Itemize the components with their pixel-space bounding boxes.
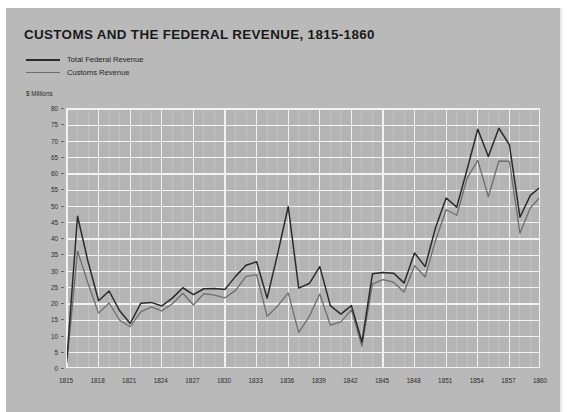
y-axis-tick-mark	[61, 319, 64, 320]
x-axis-tick-label: 1827	[185, 377, 199, 384]
y-axis-tick-label: 10	[51, 332, 58, 339]
y-axis-tick-mark	[61, 173, 64, 174]
legend-item-customs-revenue: Customs Revenue	[26, 67, 143, 78]
y-axis-tick-mark	[61, 238, 64, 239]
y-axis-tick-label: 25	[51, 283, 58, 290]
legend-item-label: Customs Revenue	[67, 68, 129, 77]
y-axis-tick-mark	[61, 303, 64, 304]
y-axis-tick-mark	[61, 189, 64, 190]
y-axis-tick-mark	[61, 271, 64, 272]
y-axis-tick-mark	[61, 206, 64, 207]
y-axis-tick-label: 30	[51, 267, 58, 274]
y-axis-tick-label: 15	[51, 316, 58, 323]
x-axis-tick-label: 1833	[248, 377, 262, 384]
x-axis-tick-label: 1848	[406, 377, 420, 384]
plot-area	[66, 108, 540, 368]
y-axis-tick-label: 50	[51, 202, 58, 209]
plot-data-lines	[67, 109, 540, 368]
y-axis-tick-label: 75	[51, 121, 58, 128]
x-axis-tick-label: 1839	[312, 377, 326, 384]
y-axis-tick-label: 20	[51, 300, 58, 307]
x-axis-tick-label: 1845	[375, 377, 389, 384]
y-axis-tick-label: 45	[51, 218, 58, 225]
y-axis-tick-mark	[61, 368, 64, 369]
y-axis-tick-label: 35	[51, 251, 58, 258]
x-axis-tick-label: 1818	[90, 377, 104, 384]
x-axis-tick-labels: 1815181818211824182718301833183618391842…	[66, 368, 540, 392]
y-axis-tick-mark	[61, 141, 64, 142]
y-axis-tick-label: 40	[51, 235, 58, 242]
legend-item-total-federal-revenue: Total Federal Revenue	[26, 54, 143, 65]
x-axis-tick-label: 1842	[343, 377, 357, 384]
page-title: CUSTOMS AND THE FEDERAL REVENUE, 1815-18…	[24, 27, 375, 42]
x-axis-tick-label: 1821	[122, 377, 136, 384]
y-axis-tick-mark	[61, 222, 64, 223]
legend-line-swatch-icon	[26, 59, 60, 61]
y-axis-tick-mark	[61, 254, 64, 255]
x-axis-tick-label: 1830	[217, 377, 231, 384]
y-axis-tick-label: 65	[51, 153, 58, 160]
y-axis-tick-label: 70	[51, 137, 58, 144]
x-axis-tick-label: 1815	[59, 377, 73, 384]
legend-item-label: Total Federal Revenue	[67, 55, 143, 64]
x-axis-tick-label: 1860	[533, 377, 547, 384]
x-axis-tick-label: 1824	[154, 377, 168, 384]
plot-canvas	[66, 108, 540, 368]
y-axis-tick-mark	[61, 157, 64, 158]
y-axis-tick-labels: 05101520253035404550556065707580	[0, 108, 64, 368]
y-axis-tick-label: 55	[51, 186, 58, 193]
x-axis-tick-label: 1857	[501, 377, 515, 384]
x-axis-tick-label: 1854	[470, 377, 484, 384]
y-axis-tick-label: 60	[51, 170, 58, 177]
y-axis-tick-mark	[61, 336, 64, 337]
y-axis-tick-mark	[61, 124, 64, 125]
y-axis-tick-mark	[61, 108, 64, 109]
y-axis-tick-mark	[61, 287, 64, 288]
x-axis-tick-label: 1851	[438, 377, 452, 384]
y-axis-tick-label: 0	[54, 365, 58, 372]
chart-legend: Total Federal Revenue Customs Revenue	[26, 54, 143, 80]
y-axis-unit-label: $ Millions	[26, 90, 53, 97]
legend-line-swatch-icon	[26, 72, 60, 73]
x-axis-tick-label: 1836	[280, 377, 294, 384]
y-axis-tick-mark	[61, 352, 64, 353]
chart-page: CUSTOMS AND THE FEDERAL REVENUE, 1815-18…	[0, 0, 584, 412]
y-axis-tick-label: 5	[54, 348, 58, 355]
y-axis-tick-label: 80	[51, 105, 58, 112]
